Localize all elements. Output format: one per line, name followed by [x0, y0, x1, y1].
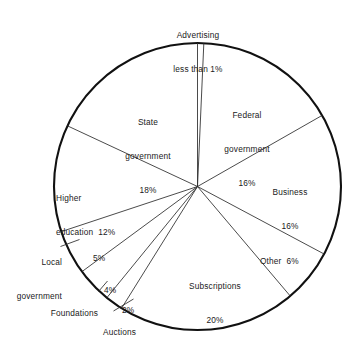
label-local-line1: Local [0, 257, 62, 268]
label-advertising-line1: Advertising [150, 30, 246, 41]
label-state-government: State government 18% [104, 95, 192, 218]
label-subscriptions-line1: Subscriptions [165, 281, 265, 292]
label-other: Other 6% [260, 234, 332, 290]
label-advertising-line2: less than 1% [150, 64, 246, 75]
label-advertising: Advertising less than 1% [150, 8, 246, 98]
label-subscriptions-value: 20% [165, 315, 265, 326]
pie-chart: Advertising less than 1% Federal governm… [0, 0, 357, 350]
label-foundations-value: 4% [104, 285, 132, 296]
label-federal-line1: Federal [203, 110, 291, 121]
label-higher-line2: education 12% [56, 227, 168, 238]
label-federal-line2: government [203, 144, 291, 155]
label-business-line1: Business [255, 187, 325, 198]
label-subscriptions: Subscriptions 20% [165, 259, 265, 349]
label-local-government: Local government [0, 235, 62, 325]
label-state-line1: State [104, 117, 192, 128]
label-state-value: 18% [104, 185, 192, 196]
label-local-line2: government [0, 291, 62, 302]
label-state-line2: government [104, 151, 192, 162]
label-other-text: Other 6% [260, 256, 332, 267]
label-business-value: 16% [255, 221, 325, 232]
